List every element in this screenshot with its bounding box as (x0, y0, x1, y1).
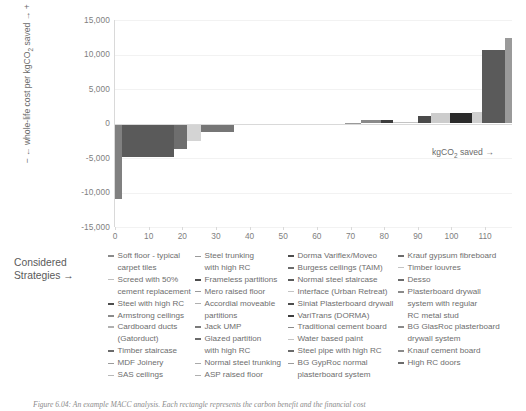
legend-item[interactable]: Traditional cement board (288, 321, 396, 333)
legend-item-label: Screed with 50% cement replacement (118, 274, 191, 298)
legend-swatch-icon (288, 350, 294, 352)
legend-item-label: Jack UMP (205, 321, 242, 333)
legend-item[interactable]: Steel with high RC (108, 298, 194, 310)
chart-bar (482, 50, 506, 124)
legend-item[interactable]: Krauf gypsum fibreboard (398, 250, 526, 262)
legend-swatch-icon (108, 363, 114, 364)
x-tick-mark (283, 227, 284, 230)
legend-item-label: Glazed partition with high RC (205, 333, 262, 357)
legend-item[interactable]: Steel trunking with high RC (195, 250, 287, 274)
legend-swatch-icon (398, 350, 404, 352)
gridline (115, 20, 512, 21)
legend-item[interactable]: Normal steel trunking (195, 357, 287, 369)
legend-item-label: Plasterboard drywall system with regular… (408, 286, 481, 322)
y-tick-label: 15,000 (62, 15, 110, 25)
y-tick-label: -15,000 (62, 222, 110, 232)
legend-swatch-icon (108, 303, 114, 305)
legend-swatch-icon (288, 339, 294, 340)
legend-item-label: Normal steel trunking (205, 357, 281, 369)
legend-item[interactable]: Steel pipe with high RC (288, 345, 396, 357)
chart-bar (472, 112, 482, 124)
legend-item[interactable]: Water based paint (288, 333, 396, 345)
legend-item[interactable]: Armstrong ceilings (108, 310, 194, 322)
x-tick-mark (216, 227, 217, 230)
legend-item[interactable]: Siniat Plasterboard drywall (288, 298, 396, 310)
legend-item-label: ASP raised floor (205, 369, 263, 381)
legend-swatch-icon (288, 255, 294, 257)
x-tick-mark (250, 227, 251, 230)
legend-item-label: VariTrans (DORMA) (298, 310, 370, 322)
legend-item[interactable]: Screed with 50% cement replacement (108, 274, 194, 298)
legend-swatch-icon (288, 315, 294, 317)
legend-swatch-icon (108, 279, 114, 280)
x-axis-title-text: kgCO2 saved → (432, 147, 494, 157)
gridline (115, 55, 512, 56)
legend-item-label: Normal steel staircase (298, 274, 378, 286)
legend-swatch-icon (288, 291, 294, 292)
y-tick-label: 5,000 (62, 84, 110, 94)
legend-column: Krauf gypsum fibreboardTimber louvresDes… (398, 250, 526, 369)
legend-item[interactable]: BG GlasRoc plasterboard drywall system (398, 321, 526, 345)
legend-item[interactable]: Timber louvres (398, 262, 526, 274)
legend-item-label: MDF Joinery (118, 357, 164, 369)
legend-item[interactable]: MDF Joinery (108, 357, 194, 369)
legend-item[interactable]: Soft floor - typical carpet tiles (108, 250, 194, 274)
legend-item-label: Frameless partitions (205, 274, 278, 286)
chart-bar (505, 38, 512, 124)
x-tick-mark (317, 227, 318, 230)
legend-item[interactable]: High RC doors (398, 357, 526, 369)
legend-item[interactable]: BG GypRoc normal plasterboard system (288, 357, 396, 381)
legend-item[interactable]: Frameless partitions (195, 274, 287, 286)
legend-item[interactable]: Glazed partition with high RC (195, 333, 287, 357)
legend-swatch-icon (195, 279, 201, 281)
legend-swatch-icon (108, 375, 114, 376)
legend-item-label: Soft floor - typical carpet tiles (118, 250, 181, 274)
legend-column: Dorma Variflex/MoveoBurgess ceilings (TA… (288, 250, 396, 381)
legend-swatch-icon (398, 255, 404, 257)
legend-swatch-icon (398, 362, 404, 364)
legend-item[interactable]: Plasterboard drywall system with regular… (398, 286, 526, 322)
legend-item[interactable]: Desso (398, 274, 526, 286)
legend-swatch-icon (195, 291, 201, 292)
legend-swatch-icon (108, 326, 114, 328)
y-axis-title-text: − ← whole-life cost per kgCO2 saved → + (22, 4, 32, 163)
legend-swatch-icon (195, 375, 201, 376)
legend-item-label: Knauf cement board (408, 345, 481, 357)
legend-item[interactable]: Timber staircase (108, 345, 194, 357)
chart-bar (115, 124, 122, 200)
chart-bar (418, 116, 431, 123)
legend-item-label: Traditional cement board (298, 321, 387, 333)
legend-item[interactable]: Burgess ceilings (TAIM) (288, 262, 396, 274)
legend-item[interactable]: Jack UMP (195, 321, 287, 333)
x-tick-mark (182, 227, 183, 230)
legend-swatch-icon (195, 256, 201, 257)
gridline (115, 227, 512, 228)
legend-item[interactable]: VariTrans (DORMA) (288, 310, 396, 322)
gridline (115, 89, 512, 90)
legend-item[interactable]: Cardboard ducts (Gatorduct) (108, 321, 194, 345)
legend-item[interactable]: SAS ceilings (108, 369, 194, 381)
legend-item[interactable]: Normal steel staircase (288, 274, 396, 286)
legend-item-label: BG GypRoc normal plasterboard system (298, 357, 371, 381)
y-tick-label: 10,000 (62, 49, 110, 59)
chart-bar (431, 113, 450, 123)
y-tick-label: 0 (62, 118, 110, 128)
legend-item-label: Armstrong ceilings (118, 310, 185, 322)
legend-swatch-icon (398, 279, 404, 281)
legend-item-label: SAS ceilings (118, 369, 163, 381)
legend-item[interactable]: ASP raised floor (195, 369, 287, 381)
legend-item[interactable]: Knauf cement board (398, 345, 526, 357)
legend-item[interactable]: Dorma Variflex/Moveo (288, 250, 396, 262)
legend-item[interactable]: Interface (Urban Retreat) (288, 286, 396, 298)
legend-item-label: Steel trunking with high RC (205, 250, 255, 274)
legend-column: Soft floor - typical carpet tilesScreed … (108, 250, 194, 381)
legend-item[interactable]: Accordial moveable partitions (195, 298, 287, 322)
legend-swatch-icon (288, 303, 294, 305)
legend-swatch-icon (398, 267, 404, 268)
legend-item[interactable]: Mero raised floor (195, 286, 287, 298)
chart-bar (122, 124, 173, 157)
legend-swatch-icon (288, 363, 294, 364)
y-tick-label: -10,000 (62, 187, 110, 197)
x-tick-mark (149, 227, 150, 230)
x-tick-mark (351, 227, 352, 230)
